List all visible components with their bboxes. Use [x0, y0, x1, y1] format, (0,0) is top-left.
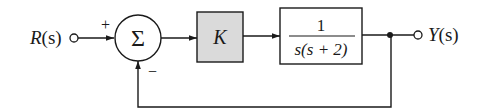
- input-label: R(s): [29, 27, 62, 49]
- output-terminal-icon: [414, 31, 422, 39]
- minus-sign: −: [148, 63, 157, 80]
- plant-numerator: 1: [317, 16, 326, 35]
- sigma-icon: Σ: [131, 25, 145, 51]
- controller-block: K: [197, 12, 243, 62]
- summing-junction: Σ: [115, 15, 161, 61]
- output-label: Y(s): [428, 24, 459, 46]
- controller-gain-label: K: [212, 26, 228, 48]
- plus-sign: +: [101, 16, 110, 33]
- pickoff-point-icon: [387, 32, 393, 38]
- input-terminal-icon: [70, 34, 78, 42]
- plant-denominator: s(s + 2): [294, 40, 347, 59]
- plant-block: 1 s(s + 2): [280, 8, 362, 64]
- block-diagram-canvas: R(s) + Σ − K 1 s(s + 2) Y(s): [0, 0, 494, 109]
